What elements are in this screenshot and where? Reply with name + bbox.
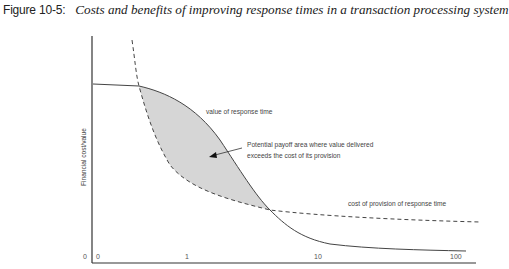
cost-curve-label: cost of provision of response time [348, 200, 447, 208]
x-tick-100: 100 [450, 253, 462, 260]
x-tick-1: 1 [185, 253, 189, 260]
value-curve-label: value of response time [206, 108, 273, 116]
payoff-area [139, 86, 270, 210]
payoff-label-line2: exceeds the cost of its provision [247, 152, 341, 160]
y-axis-title: Financial cost/value [80, 128, 87, 186]
x-tick-10: 10 [314, 253, 322, 260]
payoff-label-line1: Potential payoff area where value delive… [247, 141, 374, 149]
x-tick-0: 0 [96, 253, 100, 260]
y-tick-zero: 0 [83, 253, 87, 260]
